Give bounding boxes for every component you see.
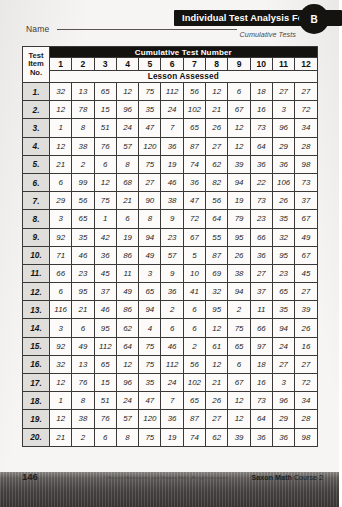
lesson-cell[interactable]: 62: [206, 155, 228, 173]
lesson-cell[interactable]: 94: [228, 173, 250, 191]
lesson-cell[interactable]: 4: [139, 319, 161, 337]
lesson-cell[interactable]: 66: [250, 319, 272, 337]
lesson-cell[interactable]: 21: [206, 374, 228, 392]
lesson-cell[interactable]: 12: [228, 119, 250, 137]
lesson-cell[interactable]: 6: [183, 319, 205, 337]
lesson-cell[interactable]: 16: [295, 337, 317, 355]
lesson-cell[interactable]: 12: [228, 392, 250, 410]
lesson-cell[interactable]: 102: [183, 374, 205, 392]
lesson-cell[interactable]: 74: [183, 155, 205, 173]
lesson-cell[interactable]: 24: [161, 374, 183, 392]
lesson-cell[interactable]: 94: [139, 228, 161, 246]
lesson-cell[interactable]: 90: [139, 192, 161, 210]
lesson-cell[interactable]: 27: [250, 264, 272, 282]
lesson-cell[interactable]: 13: [72, 355, 94, 373]
lesson-cell[interactable]: 7: [161, 119, 183, 137]
lesson-cell[interactable]: 26: [228, 246, 250, 264]
lesson-cell[interactable]: 2: [183, 337, 205, 355]
lesson-cell[interactable]: 76: [94, 410, 116, 428]
lesson-cell[interactable]: 87: [183, 410, 205, 428]
lesson-cell[interactable]: 36: [272, 428, 294, 446]
lesson-cell[interactable]: 2: [161, 301, 183, 319]
lesson-cell[interactable]: 49: [139, 246, 161, 264]
lesson-cell[interactable]: 112: [94, 337, 116, 355]
lesson-cell[interactable]: 12: [116, 355, 138, 373]
lesson-cell[interactable]: 55: [206, 228, 228, 246]
lesson-cell[interactable]: 29: [50, 192, 72, 210]
lesson-cell[interactable]: 29: [272, 137, 294, 155]
lesson-cell[interactable]: 76: [94, 137, 116, 155]
lesson-cell[interactable]: 65: [72, 210, 94, 228]
lesson-cell[interactable]: 98: [295, 155, 317, 173]
lesson-cell[interactable]: 65: [94, 355, 116, 373]
lesson-cell[interactable]: 12: [228, 137, 250, 155]
lesson-cell[interactable]: 74: [183, 428, 205, 446]
lesson-cell[interactable]: 6: [183, 301, 205, 319]
lesson-cell[interactable]: 66: [250, 228, 272, 246]
lesson-cell[interactable]: 51: [94, 119, 116, 137]
lesson-cell[interactable]: 72: [295, 374, 317, 392]
lesson-cell[interactable]: 38: [72, 137, 94, 155]
lesson-cell[interactable]: 36: [161, 410, 183, 428]
lesson-cell[interactable]: 35: [272, 301, 294, 319]
lesson-cell[interactable]: 56: [72, 192, 94, 210]
lesson-cell[interactable]: 37: [250, 283, 272, 301]
lesson-cell[interactable]: 94: [228, 283, 250, 301]
lesson-cell[interactable]: 12: [228, 410, 250, 428]
lesson-cell[interactable]: 46: [94, 301, 116, 319]
lesson-cell[interactable]: 35: [72, 228, 94, 246]
lesson-cell[interactable]: 21: [50, 155, 72, 173]
lesson-cell[interactable]: 10: [183, 264, 205, 282]
lesson-cell[interactable]: 61: [206, 337, 228, 355]
lesson-cell[interactable]: 26: [272, 192, 294, 210]
lesson-cell[interactable]: 95: [272, 246, 294, 264]
lesson-cell[interactable]: 95: [72, 283, 94, 301]
lesson-cell[interactable]: 26: [295, 319, 317, 337]
lesson-cell[interactable]: 12: [50, 374, 72, 392]
lesson-cell[interactable]: 19: [161, 428, 183, 446]
lesson-cell[interactable]: 47: [139, 119, 161, 137]
lesson-cell[interactable]: 24: [161, 101, 183, 119]
lesson-cell[interactable]: 86: [116, 301, 138, 319]
lesson-cell[interactable]: 26: [206, 119, 228, 137]
lesson-cell[interactable]: 76: [72, 374, 94, 392]
lesson-cell[interactable]: 3: [272, 101, 294, 119]
lesson-cell[interactable]: 49: [72, 337, 94, 355]
lesson-cell[interactable]: 32: [272, 228, 294, 246]
lesson-cell[interactable]: 16: [250, 374, 272, 392]
lesson-cell[interactable]: 96: [116, 101, 138, 119]
lesson-cell[interactable]: 97: [250, 337, 272, 355]
lesson-cell[interactable]: 71: [50, 246, 72, 264]
lesson-cell[interactable]: 94: [139, 301, 161, 319]
lesson-cell[interactable]: 67: [295, 210, 317, 228]
lesson-cell[interactable]: 47: [183, 192, 205, 210]
lesson-cell[interactable]: 87: [206, 246, 228, 264]
lesson-cell[interactable]: 47: [139, 392, 161, 410]
lesson-cell[interactable]: 6: [116, 210, 138, 228]
lesson-cell[interactable]: 2: [72, 155, 94, 173]
lesson-cell[interactable]: 42: [94, 228, 116, 246]
lesson-cell[interactable]: 96: [272, 392, 294, 410]
lesson-cell[interactable]: 75: [94, 192, 116, 210]
lesson-cell[interactable]: 5: [183, 246, 205, 264]
lesson-cell[interactable]: 11: [250, 301, 272, 319]
lesson-cell[interactable]: 57: [116, 410, 138, 428]
lesson-cell[interactable]: 8: [116, 155, 138, 173]
lesson-cell[interactable]: 75: [228, 319, 250, 337]
lesson-cell[interactable]: 1: [50, 119, 72, 137]
lesson-cell[interactable]: 1: [94, 210, 116, 228]
lesson-cell[interactable]: 64: [206, 210, 228, 228]
lesson-cell[interactable]: 36: [250, 155, 272, 173]
lesson-cell[interactable]: 28: [295, 410, 317, 428]
lesson-cell[interactable]: 120: [139, 410, 161, 428]
lesson-cell[interactable]: 39: [228, 428, 250, 446]
lesson-cell[interactable]: 73: [250, 119, 272, 137]
lesson-cell[interactable]: 95: [206, 301, 228, 319]
lesson-cell[interactable]: 18: [250, 355, 272, 373]
lesson-cell[interactable]: 36: [183, 173, 205, 191]
lesson-cell[interactable]: 12: [50, 101, 72, 119]
lesson-cell[interactable]: 19: [228, 192, 250, 210]
lesson-cell[interactable]: 9: [161, 264, 183, 282]
lesson-cell[interactable]: 27: [272, 83, 294, 101]
lesson-cell[interactable]: 27: [295, 355, 317, 373]
